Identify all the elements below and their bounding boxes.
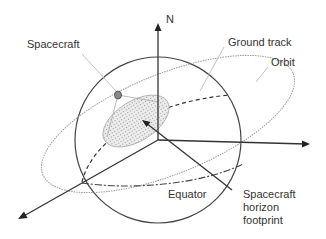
footprint-label-line1: Spacecraft — [243, 188, 296, 201]
footprint-pointer — [146, 123, 232, 190]
x-axis — [22, 140, 158, 217]
orbit-leader — [256, 67, 268, 82]
footprint-label-line3: footprint — [243, 214, 283, 227]
north-arrowhead — [155, 23, 162, 31]
footprint-label-line2: horizon — [243, 201, 279, 214]
y-axis — [158, 140, 306, 144]
ground-track-label: Ground track — [228, 36, 292, 49]
orbit-label: Orbit — [271, 56, 295, 69]
equator-path — [82, 164, 243, 186]
spacecraft-icon — [115, 91, 122, 99]
north-label: N — [166, 13, 174, 26]
spacecraft-label: Spacecraft — [27, 38, 80, 51]
y-arrowhead — [302, 141, 310, 148]
equator-label: Equator — [168, 188, 207, 201]
spacecraft-leader — [82, 54, 116, 91]
footprint-ellipse — [94, 84, 178, 157]
